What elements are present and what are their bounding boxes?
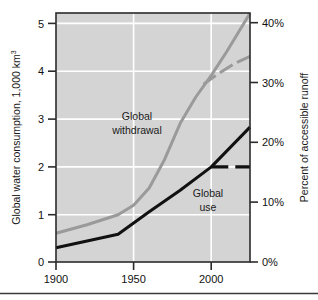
annotation-global-use-line2: use — [200, 201, 217, 213]
left-axis-ticks — [48, 23, 56, 262]
bottom-axis-tick-labels: 1900 1950 2000 — [44, 273, 224, 285]
right-axis-title-group: Percent of accessible runoff — [298, 73, 310, 202]
y2tick-label-30: 30% — [262, 77, 284, 89]
xtick-label-1950: 1950 — [121, 273, 145, 285]
y2tick-label-40: 40% — [262, 17, 284, 29]
ytick-label-1: 1 — [38, 209, 44, 221]
xtick-label-2000: 2000 — [199, 273, 223, 285]
left-axis-title-group: Global water consumption, 1,000 km3 — [10, 50, 22, 224]
right-axis-title: Percent of accessible runoff — [298, 73, 310, 202]
left-axis-tick-labels: 5 4 3 2 1 0 — [38, 18, 44, 269]
bottom-axis-ticks — [56, 262, 211, 270]
ytick-label-2: 2 — [38, 161, 44, 173]
annotation-global-withdrawal-line2: withdrawal — [111, 124, 162, 136]
left-axis-title: Global water consumption, 1,000 km3 — [10, 50, 22, 224]
right-axis-ticks — [250, 23, 258, 262]
left-axis-title-superscript: 3 — [10, 50, 17, 54]
ytick-label-3: 3 — [38, 113, 44, 125]
xtick-label-1900: 1900 — [44, 273, 68, 285]
y2tick-label-0: 0% — [262, 256, 278, 268]
y2tick-label-10: 10% — [262, 196, 284, 208]
annotation-global-withdrawal-line1: Global — [122, 110, 152, 122]
left-axis-title-text: Global water consumption, 1,000 km — [10, 54, 22, 225]
water-consumption-line-chart: 5 4 3 2 1 0 40% 30% 20% 10% 0% — [0, 0, 318, 300]
right-axis-tick-labels: 40% 30% 20% 10% 0% — [262, 17, 284, 268]
ytick-label-0: 0 — [38, 256, 44, 268]
figure-container: 5 4 3 2 1 0 40% 30% 20% 10% 0% — [0, 0, 318, 300]
ytick-label-4: 4 — [38, 65, 44, 77]
annotation-global-use-line1: Global — [193, 187, 223, 199]
ytick-label-5: 5 — [38, 18, 44, 30]
y2tick-label-20: 20% — [262, 136, 284, 148]
